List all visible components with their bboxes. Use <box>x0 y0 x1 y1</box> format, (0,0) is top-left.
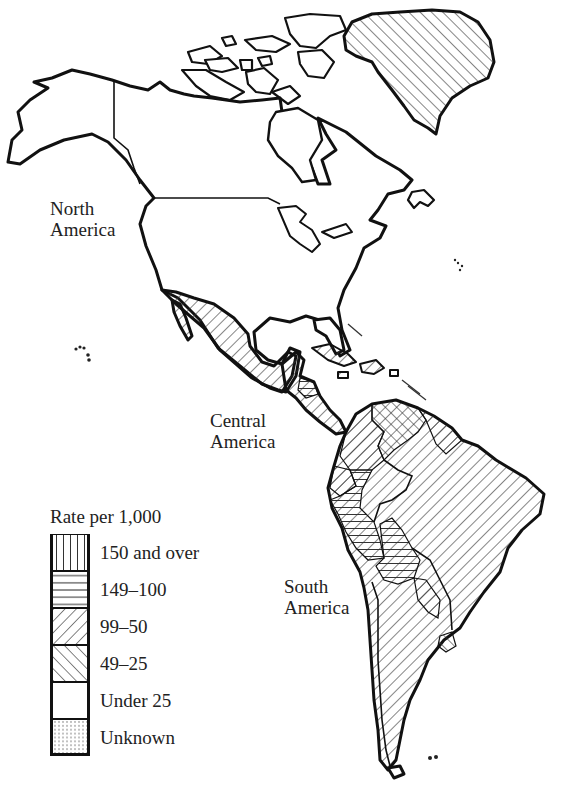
label-north-america-line2: America <box>50 219 115 240</box>
legend-item-99-50: 99–50 <box>50 608 199 645</box>
region-greenland <box>344 10 494 134</box>
lesser-antilles <box>348 324 426 400</box>
label-central-america-line2: America <box>210 431 275 452</box>
forwardslash-hatch-swatch <box>50 645 90 682</box>
label-north-america-line1: North <box>50 198 115 219</box>
label-south-america: South America <box>284 576 349 618</box>
legend-item-under-25: Under 25 <box>50 682 199 719</box>
backslash-hatch-swatch <box>50 608 90 645</box>
legend-label: Unknown <box>100 727 175 749</box>
legend-title: Rate per 1,000 <box>50 506 199 528</box>
legend-label: 150 and over <box>100 542 199 564</box>
blank-swatch <box>50 682 90 719</box>
dotted-swatch <box>50 719 90 756</box>
legend-label: Under 25 <box>100 690 171 712</box>
legend-label: 49–25 <box>100 653 148 675</box>
label-central-america: Central America <box>210 410 275 452</box>
hawaiian-islands <box>74 345 90 361</box>
legend-item-49-25: 49–25 <box>50 645 199 682</box>
region-newfoundland <box>408 190 434 208</box>
label-south-america-line1: South <box>284 576 349 597</box>
legend-item-unknown: Unknown <box>50 719 199 756</box>
legend-item-149-100: 149–100 <box>50 571 199 608</box>
label-south-america-line2: America <box>284 597 349 618</box>
legend-item-150-and-over: 150 and over <box>50 534 199 571</box>
caribbean-islands <box>312 344 398 378</box>
vertical-hatch-swatch <box>50 534 90 571</box>
label-north-america: North America <box>50 198 115 240</box>
horizontal-hatch-swatch <box>50 571 90 608</box>
legend-label: 149–100 <box>100 579 167 601</box>
bermuda-islands <box>454 259 463 271</box>
legend-label: 99–50 <box>100 616 148 638</box>
label-central-america-line1: Central <box>210 410 275 431</box>
falkland-islands <box>428 755 438 760</box>
legend: Rate per 1,000 150 and over 149–100 99–5… <box>50 506 199 756</box>
region-tierra-del-fuego <box>388 766 404 778</box>
